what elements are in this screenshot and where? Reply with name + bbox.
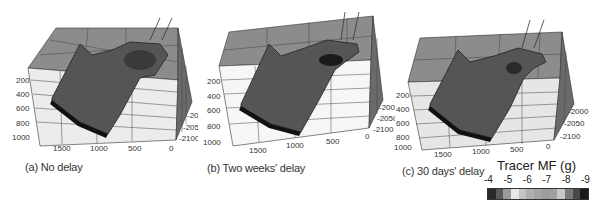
y-tick: 400 [16,90,30,99]
panel-b-caption: (b) Two weeks' delay [207,162,305,174]
panel-a: 200 400 600 800 1000 1500 1000 500 0 -20… [0,0,198,208]
x-tick: 500 [510,145,524,154]
x-tick: 1500 [249,146,267,155]
y-tick: 1000 [203,138,221,147]
colorbar-swatch [573,189,581,199]
x-tick: 500 [128,144,142,153]
surface-plot-b: 200 400 600 800 1000 1500 1000 500 0 -20… [197,0,395,208]
y-tick: 600 [207,106,221,115]
y-tick: 1000 [12,133,30,142]
x-tick: 0 [169,144,174,153]
x-tick: 1000 [90,144,108,153]
x-tick: 1000 [472,147,490,156]
z-tick: -2000 [568,107,589,116]
x-tick: 1000 [286,141,304,150]
z-tick: -2100 [373,125,394,134]
y-tick: 1000 [394,143,412,152]
colorbar-swatch [565,189,573,199]
colorbar-swatch [526,189,534,199]
colorbar-label: -6 [523,174,532,185]
x-tick: 0 [365,132,370,141]
x-tick: 1500 [434,150,452,159]
colorbar-swatch [503,189,511,199]
colorbar-swatch [496,189,504,199]
colorbar-labels: -4 -5 -6 -7 -8 -9 [484,174,590,185]
panel-a-caption: (a) No delay [25,161,83,173]
z-tick: -2000 [379,103,395,112]
y-tick: 200 [396,91,410,100]
z-tick: -2050 [564,119,585,128]
z-tick: -2100 [560,132,581,141]
y-tick: 800 [16,119,30,128]
y-tick: 600 [16,104,30,113]
y-tick: 400 [207,92,221,101]
colorbar-swatch [542,189,550,199]
z-tick: -2100 [179,134,198,143]
y-tick: 400 [396,105,410,114]
z-tick: -2050 [183,123,198,132]
y-tick: 200 [207,77,221,86]
colorbar-title: Tracer MF (g) [497,158,576,173]
panel-b: 200 400 600 800 1000 1500 1000 500 0 -20… [197,0,395,208]
colorbar-label: -9 [581,174,590,185]
x-tick: 0 [546,142,551,151]
y-tick: 800 [207,122,221,131]
colorbar-swatch [488,189,496,199]
colorbar-label: -5 [503,174,512,185]
colorbar-swatch [557,189,565,199]
colorbar-label: -8 [562,174,571,185]
colorbar-label: -4 [484,174,493,185]
x-tick: 1500 [53,144,71,153]
y-tick: 800 [396,133,410,142]
z-tick: -2050 [377,114,395,123]
y-tick: 200 [16,76,30,85]
colorbar-swatch [511,189,519,199]
colorbar-label: -7 [542,174,551,185]
colorbar-swatch [519,189,527,199]
colorbar-swatch [534,189,542,199]
surface-plot-a: 200 400 600 800 1000 1500 1000 500 0 -20… [0,0,198,208]
panel-c-caption: (c) 30 days' delay [402,165,484,177]
x-tick: 500 [326,137,340,146]
colorbar [487,188,589,200]
y-tick: 600 [396,119,410,128]
colorbar-swatch [580,189,588,199]
colorbar-swatch [550,189,558,199]
